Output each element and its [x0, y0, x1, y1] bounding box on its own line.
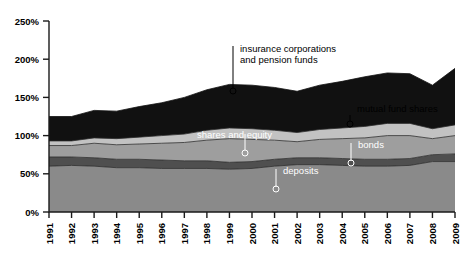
y-tick-label: 250%	[15, 16, 40, 27]
x-tick-label: 1991	[44, 222, 55, 244]
x-tick-label: 2000	[247, 223, 258, 244]
annotation-label: mutual fund shares	[357, 103, 438, 114]
annotation-label: deposits	[283, 165, 319, 176]
x-tick-label: 2009	[450, 223, 461, 244]
annotation-label: and pension funds	[240, 54, 318, 65]
x-tick-label: 1994	[111, 222, 122, 244]
x-tick-label: 2006	[382, 223, 393, 244]
x-tick-label: 2003	[314, 223, 325, 244]
y-tick-label: 200%	[15, 54, 40, 65]
x-tick-label: 1996	[156, 223, 167, 244]
y-tick-label: 0%	[25, 207, 39, 218]
x-tick-label: 1997	[179, 223, 190, 244]
area-band-deposits	[49, 162, 455, 212]
x-tick-label: 1998	[201, 223, 212, 244]
x-tick-label: 1992	[66, 223, 77, 244]
x-tick-label: 1993	[89, 223, 100, 244]
annotation-label: bonds	[358, 139, 384, 150]
x-tick-label: 1995	[134, 222, 145, 244]
y-tick-label: 100%	[15, 130, 40, 141]
x-tick-label: 2004	[337, 222, 348, 244]
chart-canvas: 0%50%100%150%200%250% 199119921993199419…	[0, 0, 476, 271]
annotation-label: insurance corporations	[240, 43, 336, 54]
x-tick-label: 2005	[359, 222, 370, 244]
y-tick-label: 150%	[15, 92, 40, 103]
y-tick-label: 50%	[20, 168, 40, 179]
stacked-area-chart: 0%50%100%150%200%250% 199119921993199419…	[0, 0, 476, 271]
x-tick-label: 2008	[427, 223, 438, 244]
x-tick-label: 2007	[404, 223, 415, 244]
x-tick-label: 2001	[269, 222, 280, 244]
annotation-label: shares and equity	[197, 129, 272, 140]
x-tick-label: 1999	[224, 223, 235, 244]
x-tick-label: 2002	[292, 223, 303, 244]
